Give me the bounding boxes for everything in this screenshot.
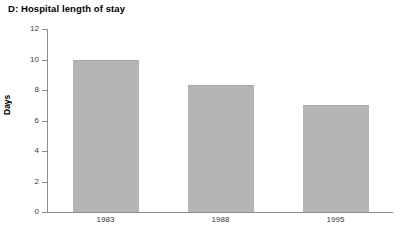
x-axis-label-1995: 1995 [306, 215, 366, 224]
y-axis-tick-label: 12 [30, 24, 39, 33]
x-axis-label-1988: 1988 [191, 215, 251, 224]
y-axis-tick: 10 [42, 60, 47, 61]
y-axis-tick: 2 [42, 182, 47, 183]
y-axis-tick: 6 [42, 121, 47, 122]
y-axis-tick: 0 [42, 212, 47, 213]
y-axis-tick: 8 [42, 90, 47, 91]
y-axis-tick-label: 4 [35, 146, 39, 155]
bar-1983 [73, 60, 139, 213]
y-axis-tick-label: 10 [30, 55, 39, 64]
chart-title: D: Hospital length of stay [8, 3, 125, 14]
bar-1988 [188, 85, 254, 212]
y-axis-tick-label: 6 [35, 116, 39, 125]
y-axis-tick-label: 0 [35, 207, 39, 216]
y-axis-tick: 12 [42, 29, 47, 30]
y-axis-tick: 4 [42, 151, 47, 152]
plot-area [48, 29, 393, 212]
x-axis-line [47, 212, 393, 213]
y-axis-tick-label: 2 [35, 177, 39, 186]
bar-1995 [303, 105, 369, 212]
y-axis-title: Days [2, 103, 12, 115]
y-axis-tick-label: 8 [35, 85, 39, 94]
x-axis-label-1983: 1983 [76, 215, 136, 224]
bar-chart-figure: D: Hospital length of stay Days 02468101… [0, 0, 405, 235]
